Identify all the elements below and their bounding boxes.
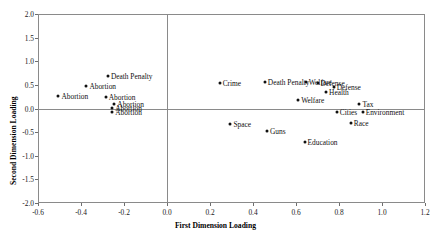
data-point <box>111 106 114 109</box>
x-axis-tick-mark <box>339 203 340 206</box>
data-point <box>104 96 107 99</box>
data-point <box>229 122 232 125</box>
data-point-label: Cities <box>340 108 357 117</box>
x-axis-tick-label: 1.2 <box>420 208 429 217</box>
x-axis-tick-mark <box>425 203 426 206</box>
x-axis-tick-mark <box>382 203 383 206</box>
x-axis-tick-label: 0.0 <box>162 208 171 217</box>
x-axis-tick-label: -0.6 <box>32 208 44 217</box>
data-point <box>325 90 328 93</box>
x-axis-tick-label: 1.0 <box>377 208 386 217</box>
data-point <box>303 140 306 143</box>
data-point-label: Crime <box>223 78 241 87</box>
data-point-label: Abortion <box>61 91 88 100</box>
data-point <box>297 99 300 102</box>
data-point <box>304 80 307 83</box>
x-axis-tick-label: 0.8 <box>334 208 343 217</box>
x-axis-tick-mark <box>81 203 82 206</box>
data-point-label: Environment <box>366 108 405 117</box>
x-axis-tick-mark <box>167 203 168 206</box>
data-point-label: Education <box>308 137 338 146</box>
y-axis-tick-mark <box>35 179 38 180</box>
y-axis-tick-label: -2.0 <box>10 199 34 208</box>
y-axis-tick-label: 1.0 <box>10 57 34 66</box>
data-point-label: Abortion <box>115 107 142 116</box>
x-axis-tick-label: 0.6 <box>291 208 300 217</box>
data-point <box>85 85 88 88</box>
scatter-plot-figure: -0.6-0.4-0.20.00.20.40.60.81.01.2-2.0-1.… <box>0 0 431 239</box>
x-axis-tick-mark <box>124 203 125 206</box>
data-point-label: Health <box>329 87 349 96</box>
y-axis-tick-mark <box>35 14 38 15</box>
data-point-label: Welfare <box>301 96 324 105</box>
y-axis-tick-mark <box>35 85 38 86</box>
x-axis-tick-label: 0.4 <box>248 208 257 217</box>
x-axis-tick-mark <box>253 203 254 206</box>
data-point <box>263 80 266 83</box>
y-axis-tick-mark <box>35 61 38 62</box>
data-point-label: Death Penalty <box>111 71 153 80</box>
data-point <box>57 94 60 97</box>
data-point <box>335 111 338 114</box>
y-axis-tick-mark <box>35 156 38 157</box>
data-point <box>265 130 268 133</box>
y-axis-tick-mark <box>35 203 38 204</box>
x-axis-tick-label: -0.2 <box>118 208 130 217</box>
x-axis-tick-mark <box>296 203 297 206</box>
data-point <box>361 111 364 114</box>
data-point <box>358 103 361 106</box>
x-axis-tick-label: -0.4 <box>75 208 87 217</box>
data-point <box>218 81 221 84</box>
x-axis-tick-label: 0.2 <box>205 208 214 217</box>
x-axis-tick-mark <box>210 203 211 206</box>
x-axis-title: First Dimension Loading <box>0 221 431 230</box>
data-point-label: Race <box>354 119 369 128</box>
y-axis-tick-label: 0.5 <box>10 80 34 89</box>
data-point <box>316 81 319 84</box>
y-axis-tick-mark <box>35 109 38 110</box>
y-axis-tick-mark <box>35 38 38 39</box>
y-axis-tick-label: 1.5 <box>10 33 34 42</box>
x-axis-tick-mark <box>38 203 39 206</box>
data-point <box>349 122 352 125</box>
data-point-label: Guns <box>270 127 286 136</box>
y-axis-tick-label: 2.0 <box>10 10 34 19</box>
y-axis-title: Second Dimension Loading <box>9 96 18 185</box>
data-point-label: Space <box>233 119 251 128</box>
data-point <box>111 110 114 113</box>
data-point <box>106 74 109 77</box>
data-point-label: Abortion <box>89 82 116 91</box>
y-axis-tick-mark <box>35 132 38 133</box>
